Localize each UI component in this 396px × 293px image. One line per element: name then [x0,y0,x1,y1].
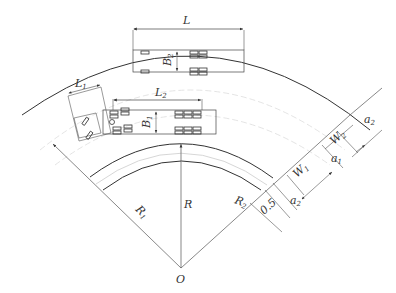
svg-text:W1: W1 [290,160,311,181]
label-a2-outer: a2 [364,113,376,127]
label-L: L [182,14,190,27]
lane-dashed-arc-2 [55,115,330,165]
label-offset: 0.5 [257,196,279,217]
label-W1: W1 [290,160,311,181]
svg-text:B2: B2 [161,53,175,67]
label-O: O [176,273,185,286]
radius-r2-line [181,115,350,268]
vehicle-outer-lane [133,29,244,75]
label-L2: L2 [154,86,167,100]
tractor-unit [68,85,111,141]
width-dimensions [250,125,382,232]
label-R2: R2 [232,193,250,211]
label-W2: W2 [327,127,348,148]
label-a2-inner: a2 [290,194,302,208]
svg-text:R1: R1 [131,202,151,222]
svg-text:0.5: 0.5 [257,196,279,217]
svg-text:W2: W2 [327,127,348,148]
label-B1: B1 [140,115,154,129]
svg-text:R2: R2 [232,193,250,211]
lane-dashed-arc-1 [40,90,345,150]
svg-text:B1: B1 [140,115,154,129]
label-a1: a1 [331,152,342,166]
width-ext-line [350,88,382,115]
label-R1: R1 [131,202,151,222]
label-R: R [183,198,192,211]
road-diagram: L L1 L2 B2 B1 R R1 R2 O 0.5 W1 W2 a1 a2 … [0,0,396,293]
label-B2: B2 [161,53,175,67]
